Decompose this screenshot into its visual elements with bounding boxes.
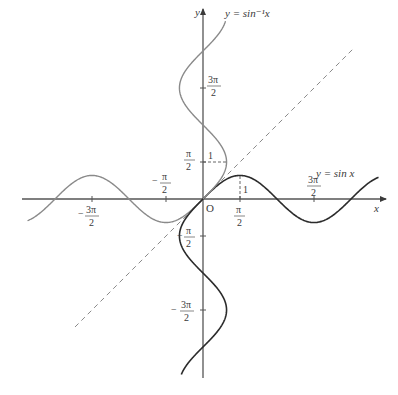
svg-text:2: 2: [237, 217, 242, 228]
x-tick-label-neg-3pi-2: − 3π 2: [78, 204, 99, 228]
function-graph: y x O y = sin⁻¹x y = sin x 1 1 − 3π 2 − …: [0, 0, 398, 395]
svg-text:2: 2: [184, 312, 189, 323]
x-axis-label: x: [373, 202, 379, 214]
x-tick-label-pi-2: π 2: [234, 204, 245, 228]
svg-text:3π: 3π: [208, 74, 218, 85]
origin-label: O: [206, 202, 214, 214]
x-tick-label-neg-pi-2: − π 2: [152, 171, 171, 195]
svg-text:−: −: [152, 175, 158, 186]
svg-text:2: 2: [162, 184, 167, 195]
y-tick-label-neg-pi-2: − π 2: [177, 225, 195, 249]
one-on-y-guide: 1: [208, 150, 213, 161]
svg-text:−: −: [171, 304, 177, 315]
svg-text:3π: 3π: [86, 204, 96, 215]
svg-text:3π: 3π: [181, 299, 191, 310]
one-on-x-guide: 1: [243, 184, 248, 195]
svg-text:2: 2: [186, 238, 191, 249]
y-tick-label-3pi-2: 3π 2: [207, 74, 221, 98]
sin-label: y = sin x: [315, 167, 354, 179]
y-tick-label-pi-2: π 2: [184, 148, 195, 172]
svg-text:2: 2: [311, 187, 316, 198]
svg-text:2: 2: [89, 217, 94, 228]
y-tick-label-neg-3pi-2: − 3π 2: [171, 299, 194, 323]
svg-text:π: π: [186, 148, 191, 159]
y-axis-label: y: [194, 6, 200, 18]
svg-text:2: 2: [186, 161, 191, 172]
svg-text:3π: 3π: [308, 174, 318, 185]
svg-text:π: π: [186, 225, 191, 236]
arcsin-label: y = sin⁻¹x: [224, 7, 270, 19]
svg-text:π: π: [236, 204, 241, 215]
svg-text:−: −: [78, 208, 84, 219]
svg-text:2: 2: [211, 87, 216, 98]
svg-text:−: −: [177, 230, 183, 241]
svg-text:π: π: [162, 171, 167, 182]
